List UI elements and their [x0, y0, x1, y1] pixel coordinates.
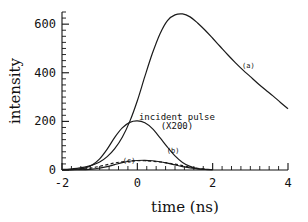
figure-container: 0200400600 -2024 (a)incident pulse(X200)… [0, 0, 308, 222]
y-tick-label: 400 [34, 66, 56, 80]
y-axis-minor-ticks [62, 12, 66, 164]
y-axis-title: intensity [6, 57, 24, 124]
x-tick-label: 0 [134, 176, 141, 190]
intensity-vs-time-chart: 0200400600 -2024 (a)incident pulse(X200)… [0, 0, 308, 222]
y-axis-tick-labels: 0200400600 [34, 17, 56, 177]
x-tick-label: 4 [284, 176, 291, 190]
chart-annotations: (a)incident pulse(X200)(b)(c) [123, 62, 255, 165]
y-tick-label: 600 [34, 17, 56, 31]
chart-annotation: (X200) [161, 121, 194, 131]
x-axis-title: time (ns) [151, 198, 219, 216]
x-axis-tick-labels: -2024 [55, 176, 292, 190]
y-tick-label: 200 [34, 114, 56, 128]
chart-annotation: (a) [242, 62, 255, 70]
chart-annotation: (b) [167, 147, 180, 155]
chart-annotation: (c) [123, 157, 136, 165]
x-tick-label: 2 [209, 176, 216, 190]
x-tick-label: -2 [55, 176, 69, 190]
y-tick-label: 0 [49, 163, 56, 177]
